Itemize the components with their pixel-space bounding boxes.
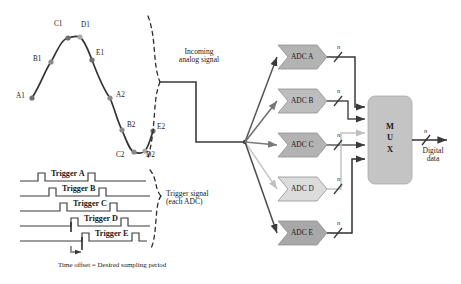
time-offset-caption: Time offset = Desired sampling period [58, 262, 166, 269]
mux-output-bus [412, 135, 447, 145]
adc-label-b: ADC B [291, 97, 313, 105]
bus-width-label-c: n [337, 132, 340, 139]
mux-letter-u: U [368, 132, 412, 143]
bus-width-label-e: n [337, 220, 340, 227]
mux-label: M U X [368, 121, 412, 155]
bus-width-label-a: n [337, 44, 340, 51]
bus-width-label-b: n [337, 88, 340, 95]
incoming-analog-line2: analog signal [171, 56, 227, 64]
trigger-label-b: Trigger B [62, 185, 96, 194]
trigger-label-c: Trigger C [73, 200, 107, 209]
sample-label-d2: D2 [146, 152, 155, 160]
adc-label-d: ADC D [291, 185, 314, 193]
mux-letter-m: M [368, 121, 412, 132]
waveform-sample-dots [29, 34, 155, 154]
trigger-label-a: Trigger A [51, 170, 85, 179]
sample-label-a2: A2 [116, 92, 125, 100]
fanout-arrows [245, 57, 277, 233]
sample-label-c2: C2 [116, 152, 124, 160]
waveform-curve [32, 36, 153, 153]
trigger-label-e: Trigger E [95, 230, 129, 239]
adc-label-a: ADC A [291, 53, 313, 61]
trigger-label-d: Trigger D [84, 215, 118, 224]
sample-label-e2: E2 [157, 124, 165, 132]
trigger-signal-brace [150, 170, 161, 250]
sample-label-b1: B1 [33, 56, 41, 64]
mux-letter-x: X [368, 144, 412, 155]
sample-label-d1: D1 [81, 22, 90, 30]
sample-label-c1: C1 [54, 21, 62, 29]
time-interleaved-adc-diagram: A1 B1 C1 D1 E1 A2 B2 C2 D2 E2 Incoming a… [0, 0, 461, 284]
trigger-signal-line2: (each ADC) [166, 198, 226, 206]
time-offset-marker [71, 222, 82, 253]
sample-label-b2: B2 [127, 122, 135, 130]
analog-feed-line [160, 82, 247, 144]
analog-signal-brace [148, 16, 160, 158]
trigger-signal-label: Trigger signal (each ADC) [166, 190, 226, 206]
adc-label-e: ADC E [291, 229, 313, 237]
adc-label-c: ADC C [291, 141, 313, 149]
adc-output-buses [327, 52, 365, 238]
sample-label-e1: E1 [96, 50, 104, 58]
bus-width-label-d: n [337, 176, 340, 183]
sample-label-a1: A1 [16, 93, 25, 101]
digital-data-line2: data [410, 155, 456, 163]
output-bus-width-label: n [424, 128, 427, 135]
incoming-analog-signal-label: Incoming analog signal [171, 48, 227, 64]
digital-data-label: Digital data [410, 147, 456, 163]
